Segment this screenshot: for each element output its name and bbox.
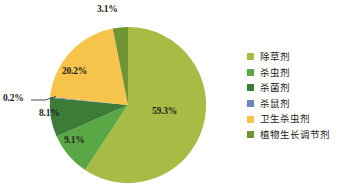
- legend-item-herbicide[interactable]: 除草剂: [247, 49, 340, 65]
- pie-plot-area: 3.1% 20.2% 0.2% 8.1% 9.1% 59.3%: [0, 0, 240, 194]
- legend-swatch-icon: [247, 53, 254, 60]
- slice-label-herbicide: 59.3%: [152, 106, 177, 116]
- legend-swatch-icon: [247, 131, 254, 138]
- legend-item-insecticide[interactable]: 杀虫剂: [247, 65, 340, 81]
- slice-label-sanitary-insecticide: 20.2%: [62, 66, 87, 76]
- legend: 除草剂 杀虫剂 杀菌剂 杀鼠剂 卫生杀虫剂 植物生长调节剂: [247, 49, 340, 143]
- legend-item-label: 杀菌剂: [260, 83, 290, 93]
- slice-label-rodenticide-callout: 0.2%: [3, 93, 24, 103]
- slice-label-insecticide: 9.1%: [64, 135, 85, 145]
- pie-chart: 3.1% 20.2% 0.2% 8.1% 9.1% 59.3% 除草剂 杀虫剂 …: [0, 0, 340, 194]
- legend-item-sanitary-insecticide[interactable]: 卫生杀虫剂: [247, 111, 340, 127]
- slice-label-plant-growth-regulator: 3.1%: [97, 4, 118, 14]
- pie-svg: [0, 0, 240, 194]
- legend-swatch-icon: [247, 69, 254, 76]
- legend-item-label: 植物生长调节剂: [260, 130, 330, 140]
- legend-swatch-icon: [247, 84, 254, 91]
- slice-label-fungicide: 8.1%: [39, 108, 60, 118]
- legend-item-plant-growth-regulator[interactable]: 植物生长调节剂: [247, 127, 340, 143]
- legend-item-rodenticide[interactable]: 杀鼠剂: [247, 96, 340, 112]
- legend-item-label: 杀虫剂: [260, 68, 290, 78]
- legend-swatch-icon: [247, 116, 254, 123]
- legend-item-label: 除草剂: [260, 52, 290, 62]
- legend-swatch-icon: [247, 100, 254, 107]
- legend-item-label: 卫生杀虫剂: [260, 114, 310, 124]
- legend-item-label: 杀鼠剂: [260, 99, 290, 109]
- legend-item-fungicide[interactable]: 杀菌剂: [247, 80, 340, 96]
